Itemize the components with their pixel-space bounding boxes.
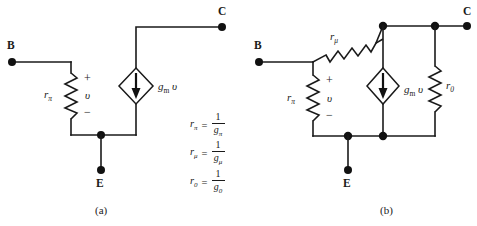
- equation-rpi-lhs: rπ: [190, 118, 198, 132]
- equation-r0-fraction: 1 g0: [212, 169, 225, 195]
- label-source-gmv-a: gm υ: [158, 81, 177, 95]
- caption-circuit-a: (a): [95, 205, 107, 216]
- gm-v-glyph-a: υ: [172, 80, 177, 92]
- label-voltage-symbol-b: υ: [327, 93, 332, 104]
- label-resistor-rpi-a: rπ: [44, 89, 52, 103]
- equation-rmu-numerator: 1: [214, 140, 223, 151]
- gm-sub-glyph-b: m: [410, 89, 416, 98]
- equation-r0: r0 = 1 g0: [190, 169, 225, 195]
- label-resistor-rpi-b: rπ: [287, 92, 295, 106]
- equation-rmu: rμ = 1 gμ: [190, 140, 225, 166]
- rpi-sub-glyph-a: π: [48, 94, 52, 103]
- equation-rmu-denominator: gμ: [212, 152, 225, 166]
- resistor-rpi-zigzag-b: [307, 75, 319, 121]
- terminal-dot-collector-b: [463, 22, 471, 30]
- rpi-sub-glyph-b: π: [291, 97, 295, 106]
- equation-rmu-lhs: rμ: [190, 146, 198, 160]
- equation-rpi-fraction: 1 gπ: [212, 112, 225, 138]
- equation-r0-equals: =: [202, 177, 208, 188]
- wire-rmu-left-b: [313, 55, 326, 62]
- figure-container: B C E rπ + υ − gm υ (a) rπ = 1 gπ rμ = 1…: [0, 0, 477, 226]
- gm-v-glyph-b: υ: [418, 83, 423, 95]
- equation-rpi-denominator: gπ: [212, 124, 225, 138]
- terminal-dot-emitter-b: [344, 166, 352, 174]
- equation-rpi: rπ = 1 gπ: [190, 112, 225, 138]
- rmu-sub-glyph-b: μ: [334, 36, 338, 45]
- equation-rmu-fraction: 1 gμ: [212, 140, 225, 166]
- label-terminal-collector-b: C: [463, 6, 471, 18]
- label-terminal-collector-a: C: [218, 6, 226, 18]
- label-terminal-base-b: B: [254, 40, 262, 52]
- circuit-diagram-svg: [0, 0, 477, 226]
- label-terminal-emitter-a: E: [96, 178, 104, 190]
- label-terminal-emitter-b: E: [343, 178, 351, 190]
- terminal-dot-collector-a: [218, 23, 226, 31]
- label-voltage-minus-a: −: [84, 106, 91, 118]
- equation-rmu-equals: =: [202, 148, 208, 159]
- label-voltage-minus-b: −: [326, 109, 333, 121]
- label-voltage-plus-b: +: [326, 74, 333, 86]
- equation-r0-denominator: g0: [212, 181, 225, 195]
- equation-rpi-numerator: 1: [214, 112, 223, 123]
- r0-sub-glyph-b: 0: [450, 85, 454, 94]
- equation-rpi-equals: =: [202, 120, 208, 131]
- resistor-rpi-zigzag-a: [65, 73, 77, 119]
- equation-r0-lhs: r0: [190, 175, 198, 189]
- terminal-dot-base-b: [255, 58, 263, 66]
- label-voltage-plus-a: +: [84, 72, 91, 84]
- terminal-dot-base-a: [8, 58, 16, 66]
- terminal-dot-emitter-a: [97, 166, 105, 174]
- caption-circuit-b: (b): [380, 205, 393, 216]
- label-resistor-r0-b: r0: [446, 80, 454, 94]
- label-resistor-rmu-b: rμ: [330, 31, 338, 45]
- wire-collector-path-a: [136, 27, 222, 68]
- label-voltage-symbol-a: υ: [85, 90, 90, 101]
- junction-dot-source-bottom-b: [379, 132, 387, 140]
- label-terminal-base-a: B: [7, 40, 15, 52]
- equation-r0-numerator: 1: [214, 169, 223, 180]
- resistor-r0-zigzag-b: [429, 66, 441, 112]
- label-source-gmv-b: gm υ: [404, 84, 423, 98]
- gm-sub-glyph-a: m: [164, 86, 170, 95]
